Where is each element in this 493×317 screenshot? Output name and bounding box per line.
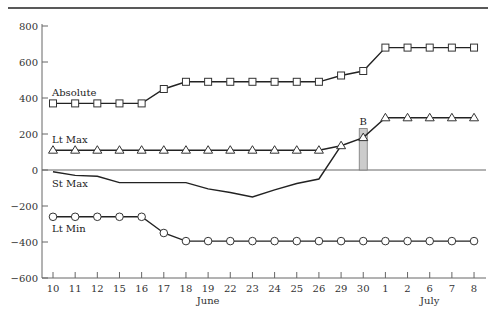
marker-square: [315, 78, 322, 85]
marker-square: [205, 78, 212, 85]
x-tick-label: 10: [47, 283, 60, 294]
marker-square: [338, 72, 345, 79]
series-label: Lt Max: [52, 134, 88, 145]
x-tick-label: 25: [290, 283, 303, 294]
marker-triangle: [204, 146, 213, 154]
marker-square: [116, 100, 123, 107]
marker-triangle: [381, 113, 390, 121]
marker-triangle: [292, 146, 301, 154]
marker-circle: [182, 237, 190, 245]
marker-circle: [94, 213, 102, 221]
marker-square: [94, 100, 101, 107]
marker-square: [360, 68, 367, 75]
marker-circle: [426, 237, 434, 245]
marker-triangle: [248, 146, 257, 154]
y-tick-label: 0: [32, 165, 38, 176]
marker-square: [426, 44, 433, 51]
x-tick-label: 30: [357, 283, 370, 294]
x-tick-label: 15: [113, 283, 126, 294]
marker-circle: [359, 237, 367, 245]
marker-square: [471, 44, 478, 51]
x-tick-label: 22: [224, 283, 237, 294]
marker-square: [160, 86, 167, 93]
marker-circle: [226, 237, 234, 245]
line-chart: −600−400−2000200400600800101112151617181…: [0, 0, 493, 317]
x-tick-label: 6: [427, 283, 433, 294]
marker-square: [50, 100, 57, 107]
x-tick-label: 2: [404, 283, 410, 294]
x-tick-label: 19: [202, 283, 215, 294]
series-markers: [49, 44, 479, 245]
marker-circle: [315, 237, 323, 245]
marker-triangle: [447, 113, 456, 121]
marker-triangle: [49, 146, 58, 154]
marker-square: [249, 78, 256, 85]
x-tick-label: 12: [91, 283, 104, 294]
y-tick-label: −200: [11, 201, 38, 212]
marker-triangle: [403, 113, 412, 121]
labels: −600−400−2000200400600800101112151617181…: [11, 21, 478, 307]
x-tick-label: 7: [449, 283, 455, 294]
marker-circle: [271, 237, 279, 245]
marker-square: [72, 100, 79, 107]
series-label: Absolute: [51, 87, 96, 98]
marker-circle: [116, 213, 124, 221]
marker-circle: [71, 213, 79, 221]
x-tick-label: 16: [135, 283, 148, 294]
y-tick-label: 600: [19, 57, 38, 68]
marker-triangle: [181, 146, 190, 154]
x-tick-label: 1: [382, 283, 388, 294]
marker-triangle: [425, 113, 434, 121]
x-tick-label: 8: [471, 283, 477, 294]
marker-square: [448, 44, 455, 51]
marker-triangle: [115, 146, 124, 154]
marker-triangle: [71, 146, 80, 154]
marker-triangle: [159, 146, 168, 154]
axes: [42, 24, 486, 278]
annotation-label: B: [360, 116, 367, 127]
marker-circle: [249, 237, 257, 245]
series-line-lt-min: [53, 217, 474, 241]
marker-circle: [160, 229, 168, 237]
marker-circle: [337, 237, 345, 245]
y-tick-label: −600: [11, 273, 38, 284]
marker-square: [182, 78, 189, 85]
marker-circle: [382, 237, 390, 245]
x-tick-label: 17: [157, 283, 170, 294]
marker-triangle: [270, 146, 279, 154]
y-tick-label: 400: [19, 93, 38, 104]
marker-circle: [404, 237, 412, 245]
series-lines: [53, 48, 474, 242]
x-tick-label: 29: [335, 283, 348, 294]
marker-triangle: [137, 146, 146, 154]
marker-circle: [49, 213, 57, 221]
marker-circle: [138, 213, 146, 221]
marker-triangle: [226, 146, 235, 154]
x-tick-label: 23: [246, 283, 259, 294]
month-label: July: [419, 295, 440, 306]
series-label: Lt Min: [52, 223, 86, 234]
y-tick-label: −400: [11, 237, 38, 248]
marker-triangle: [470, 113, 479, 121]
y-tick-label: 800: [19, 21, 38, 32]
marker-circle: [204, 237, 212, 245]
x-tick-label: 18: [180, 283, 193, 294]
marker-square: [404, 44, 411, 51]
x-tick-label: 24: [268, 283, 281, 294]
marker-circle: [470, 237, 478, 245]
series-label: St Max: [52, 178, 88, 189]
x-tick-label: 26: [313, 283, 326, 294]
x-tick-label: 11: [69, 283, 82, 294]
y-tick-label: 200: [19, 129, 38, 140]
marker-square: [138, 100, 145, 107]
marker-square: [227, 78, 234, 85]
series-line-absolute: [53, 48, 474, 104]
marker-square: [382, 44, 389, 51]
marker-square: [271, 78, 278, 85]
month-label: June: [196, 295, 220, 306]
marker-triangle: [93, 146, 102, 154]
marker-circle: [448, 237, 456, 245]
marker-circle: [293, 237, 301, 245]
series-line-lt-max: [53, 118, 474, 150]
marker-square: [293, 78, 300, 85]
